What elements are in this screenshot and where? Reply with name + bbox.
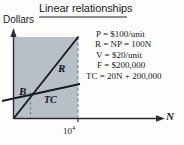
- total-cost-label: TC: [44, 94, 57, 105]
- breakeven-label: B: [19, 85, 26, 97]
- revenue-label: R: [58, 62, 65, 74]
- equation-variable-cost: V = $20/unit: [86, 50, 161, 60]
- y-axis-arrowhead: [10, 28, 16, 37]
- equation-list: P = $100/unit R = NP = 100N V = $20/unit…: [86, 29, 161, 81]
- x-axis-title: N: [166, 110, 174, 122]
- x-tick-exponent: 4: [72, 124, 75, 131]
- equation-price: P = $100/unit: [86, 29, 161, 39]
- x-axis-tick-label: 104: [63, 124, 75, 136]
- equation-total-cost: TC = 20N + 200,000: [86, 71, 161, 81]
- linear-relationships-figure: Linear relationships Dollars B R TC 104 …: [0, 0, 184, 145]
- x-axis-arrowhead: [156, 115, 165, 121]
- equation-revenue: R = NP = 100N: [86, 39, 161, 49]
- x-tick-base: 10: [63, 126, 72, 136]
- equation-fixed-cost: F = $200,000: [86, 60, 161, 70]
